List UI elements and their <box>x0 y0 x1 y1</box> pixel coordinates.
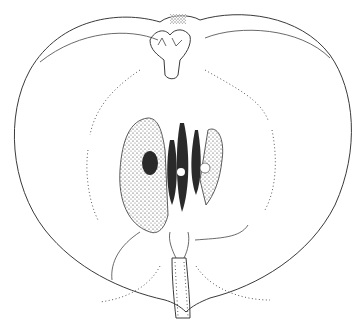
apple-illustration: Apple longitudinal cross-section line dr… <box>0 0 360 321</box>
apple-cross-section-drawing <box>0 0 360 321</box>
core-line <box>90 70 140 135</box>
stem <box>172 258 190 318</box>
calyx <box>150 14 190 79</box>
